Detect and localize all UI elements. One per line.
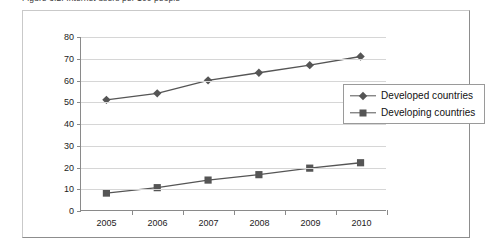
data-point-marker (255, 171, 262, 178)
x-axis-tick-mark (132, 210, 133, 215)
legend-label-developing: Developing countries (381, 107, 475, 118)
data-point-marker (153, 89, 161, 97)
gridline (81, 189, 386, 190)
y-axis-tick-label: 60 (64, 76, 74, 86)
x-axis-tick-mark (183, 210, 184, 215)
square-marker-icon (350, 107, 376, 119)
y-axis-tick-mark (77, 81, 81, 82)
y-axis-tick-label: 10 (64, 184, 74, 194)
x-axis-tick-label: 2008 (249, 218, 269, 228)
gridline (81, 81, 386, 82)
y-axis-tick-label: 80 (64, 32, 74, 42)
y-axis-tick-mark (77, 102, 81, 103)
x-axis-tick-label: 2007 (198, 218, 218, 228)
y-axis-tick-label: 20 (64, 163, 74, 173)
x-axis-tick-label: 2006 (147, 218, 167, 228)
x-axis-tick-mark (234, 210, 235, 215)
y-axis-tick-label: 30 (64, 141, 74, 151)
gridline (81, 59, 386, 60)
data-point-marker (357, 159, 364, 166)
chart-legend: Developed countries Developing countries (343, 84, 485, 124)
x-axis-tick-label: 2009 (300, 218, 320, 228)
y-axis-tick-mark (77, 189, 81, 190)
y-axis-tick-label: 50 (64, 97, 74, 107)
legend-item-developing: Developing countries (350, 106, 478, 119)
legend-item-developed: Developed countries (350, 89, 478, 102)
gridline (81, 168, 386, 169)
x-axis-tick-mark (336, 210, 337, 215)
gridline (81, 102, 386, 103)
x-axis-tick-label: 2005 (96, 218, 116, 228)
y-axis-tick-mark (77, 37, 81, 38)
y-axis-tick-mark (77, 59, 81, 60)
series-line-developed (106, 57, 360, 100)
y-axis-tick-mark (77, 168, 81, 169)
legend-label-developed: Developed countries (381, 90, 473, 101)
x-axis-tick-mark (387, 210, 388, 215)
diamond-marker-icon (350, 90, 376, 102)
y-axis-tick-label: 0 (69, 206, 74, 216)
gridline (81, 124, 386, 125)
gridline (81, 37, 386, 38)
plot-area: 0102030405060708020052006200720082009201… (80, 37, 386, 211)
data-point-marker (103, 189, 110, 196)
data-point-marker (204, 176, 211, 183)
data-point-marker (306, 61, 314, 69)
x-axis-tick-mark (285, 210, 286, 215)
chart-frame: 0102030405060708020052006200720082009201… (22, 10, 470, 238)
x-axis-tick-label: 2010 (351, 218, 371, 228)
data-point-marker (255, 69, 263, 77)
gridline (81, 146, 386, 147)
y-axis-tick-mark (77, 146, 81, 147)
y-axis-tick-mark (77, 124, 81, 125)
y-axis-tick-label: 40 (64, 119, 74, 129)
y-axis-tick-label: 70 (64, 54, 74, 64)
y-axis-tick-mark (77, 211, 81, 212)
plot-inner: 0102030405060708020052006200720082009201… (81, 37, 386, 210)
figure-caption: Figure 3.2: Internet users per 100 peopl… (22, 0, 180, 3)
